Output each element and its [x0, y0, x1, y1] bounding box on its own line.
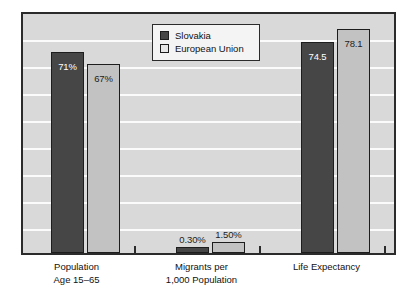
category-label-migrants: Migrants per 1,000 Population	[146, 261, 257, 286]
axis-tick	[134, 246, 136, 253]
bar-value-life-expectancy-slovakia: 74.5	[308, 52, 326, 62]
bar-value-life-expectancy-european-union: 78.1	[344, 39, 362, 49]
category-label-migrants-line1: Migrants per	[175, 261, 228, 272]
legend-item-slovakia: Slovakia	[160, 29, 253, 42]
bar-population-slovakia: 71%	[51, 52, 84, 253]
plot-area: 71% 67% 0.30% 1.50% 74.5 78.1	[21, 12, 396, 255]
bar-life-expectancy-european-union: 78.1	[337, 29, 370, 253]
legend-swatch-european-union-icon	[160, 44, 169, 53]
category-label-migrants-line2: 1,000 Population	[146, 274, 257, 287]
chart-legend: Slovakia European Union	[152, 24, 260, 61]
bar-value-migrants-slovakia: 0.30%	[179, 235, 205, 245]
bar-value-population-european-union: 67%	[94, 74, 113, 84]
bar-value-migrants-european-union: 1.50%	[215, 230, 241, 240]
category-label-population-line1: Population	[54, 261, 99, 272]
axis-tick	[259, 246, 261, 253]
legend-swatch-slovakia-icon	[160, 31, 169, 40]
legend-label-slovakia: Slovakia	[175, 31, 211, 41]
category-axis-labels: Population Age 15–65 Migrants per 1,000 …	[0, 261, 415, 295]
category-label-life-expectancy: Life Expectancy	[271, 261, 382, 274]
category-label-life-expectancy-line1: Life Expectancy	[293, 261, 360, 272]
legend-item-european-union: European Union	[160, 42, 253, 55]
bar-life-expectancy-slovakia: 74.5	[301, 42, 334, 253]
category-label-population: Population Age 15–65	[21, 261, 132, 286]
bar-migrants-slovakia: 0.30%	[176, 247, 209, 253]
legend-label-european-union: European Union	[175, 44, 244, 54]
bar-population-european-union: 67%	[87, 64, 120, 253]
bar-value-population-slovakia: 71%	[58, 62, 77, 72]
comparison-bar-chart: 71% 67% 0.30% 1.50% 74.5 78.1	[0, 0, 415, 297]
category-label-population-line2: Age 15–65	[21, 274, 132, 287]
bar-migrants-european-union: 1.50%	[212, 242, 245, 253]
axis-tick	[384, 246, 386, 253]
